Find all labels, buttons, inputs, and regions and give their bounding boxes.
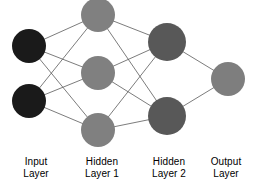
network-graph: [0, 0, 254, 152]
layer-label-output-line2: Layer: [200, 168, 252, 180]
layer-label-hidden-2-line1: Hidden: [140, 156, 198, 168]
layer-label-output: Output Layer: [200, 156, 252, 180]
layer-label-hidden-1: Hidden Layer 1: [72, 156, 132, 180]
node-input-1: [12, 29, 46, 63]
node-hidden2-2: [148, 97, 186, 135]
node-input-2: [12, 84, 46, 118]
node-hidden1-1: [81, 0, 115, 32]
layer-label-input: Input Layer: [8, 156, 64, 180]
layer-label-row: Input Layer Hidden Layer 1 Hidden Layer …: [0, 156, 254, 190]
connection-edges: [29, 15, 228, 130]
node-hidden2-1: [148, 23, 186, 61]
layer-label-hidden-1-line2: Layer 1: [72, 168, 132, 180]
node-hidden1-2: [81, 56, 115, 90]
node-hidden1-3: [81, 113, 115, 147]
layer-label-hidden-2: Hidden Layer 2: [140, 156, 198, 180]
neural-network-diagram: Input Layer Hidden Layer 1 Hidden Layer …: [0, 0, 254, 190]
layer-label-hidden-2-line2: Layer 2: [140, 168, 198, 180]
node-output-1: [211, 62, 245, 96]
layer-label-input-line2: Layer: [8, 168, 64, 180]
layer-label-hidden-1-line1: Hidden: [72, 156, 132, 168]
layer-label-input-line1: Input: [8, 156, 64, 168]
network-nodes: [12, 0, 245, 147]
layer-label-output-line1: Output: [200, 156, 252, 168]
